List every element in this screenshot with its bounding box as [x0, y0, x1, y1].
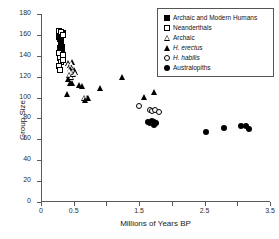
- chart-legend: Archaic and Modern HumansNeanderthalsArc…: [157, 8, 274, 77]
- filled-triangle-icon: [164, 45, 170, 51]
- x-axis-tick-label: 0.5: [69, 207, 79, 215]
- legend-item-label: H. erectus: [173, 44, 203, 52]
- x-axis-tick-label: 1.5: [134, 207, 144, 215]
- open-square-icon: [164, 25, 170, 31]
- y-axis-tick: 20: [37, 181, 41, 182]
- x-axis-tick: [270, 202, 271, 206]
- legend-item-label: Australopiths: [173, 64, 211, 72]
- scatter-chart-figure: Group Size Millions of Years BP 02040608…: [0, 0, 279, 239]
- y-axis-tick-label: 60: [23, 134, 31, 142]
- data-point: [79, 83, 85, 89]
- data-point: [151, 122, 157, 128]
- y-axis-tick-label: 100: [19, 93, 31, 101]
- data-point: [246, 126, 252, 132]
- y-axis-tick: 60: [37, 139, 41, 140]
- x-axis-tick: [106, 202, 107, 206]
- data-point: [85, 95, 91, 101]
- filled-square-icon: [164, 15, 170, 21]
- x-axis-tick: [139, 202, 140, 206]
- y-axis-tick: 120: [37, 77, 41, 78]
- filled-circle-icon: [164, 65, 170, 71]
- legend-item: Archaic: [161, 33, 269, 42]
- data-point: [156, 109, 162, 115]
- x-axis-tick: [172, 202, 173, 206]
- y-axis-tick-label: 80: [23, 113, 31, 121]
- data-point: [57, 67, 63, 73]
- data-point: [64, 91, 70, 97]
- y-axis-tick-label: 120: [19, 72, 31, 80]
- data-point: [119, 74, 125, 80]
- legend-marker-icon: [161, 13, 173, 22]
- y-axis-tick-label: 140: [19, 51, 31, 59]
- legend-item-label: Archaic and Modern Humans: [173, 14, 257, 22]
- y-axis-tick-label: 20: [23, 176, 31, 184]
- data-point: [221, 125, 227, 131]
- x-axis-tick: [205, 202, 206, 206]
- data-point: [60, 32, 66, 38]
- y-axis-tick: 100: [37, 98, 41, 99]
- legend-item: H. habilis: [161, 53, 269, 62]
- data-point: [69, 59, 75, 65]
- y-axis-tick: 160: [37, 35, 41, 36]
- data-point: [141, 94, 147, 100]
- x-axis-tick: [41, 202, 42, 206]
- data-point: [203, 129, 209, 135]
- legend-marker-icon: [161, 23, 173, 32]
- legend-marker-icon: [161, 63, 173, 72]
- data-point: [72, 69, 78, 75]
- x-axis-title: Millions of Years BP: [41, 219, 270, 228]
- y-axis-tick-label: 160: [19, 30, 31, 38]
- x-axis-tick-label: 0: [39, 207, 43, 215]
- x-axis-tick: [237, 202, 238, 206]
- legend-item-label: Archaic: [173, 34, 195, 42]
- data-point: [136, 103, 142, 109]
- legend-marker-icon: [161, 43, 173, 52]
- y-axis-tick-label: 180: [19, 9, 31, 17]
- x-axis-tick: [74, 202, 75, 206]
- y-axis-tick-label: 0: [27, 197, 31, 205]
- y-axis-tick-label: 40: [23, 155, 31, 163]
- data-point: [151, 89, 157, 95]
- legend-item-label: H. habilis: [173, 54, 200, 62]
- data-point: [69, 80, 75, 86]
- open-circle-icon: [164, 55, 170, 61]
- legend-item: Neanderthals: [161, 23, 269, 32]
- y-axis-tick: 140: [37, 56, 41, 57]
- data-point: [97, 85, 103, 91]
- y-axis-tick: 180: [37, 14, 41, 15]
- legend-marker-icon: [161, 53, 173, 62]
- y-axis-tick: 80: [37, 118, 41, 119]
- x-axis-tick-label: 3.5: [265, 207, 275, 215]
- legend-marker-icon: [161, 33, 173, 42]
- y-axis-tick: 40: [37, 160, 41, 161]
- legend-item: Australopiths: [161, 63, 269, 72]
- legend-item: Archaic and Modern Humans: [161, 13, 269, 22]
- legend-item-label: Neanderthals: [173, 24, 212, 32]
- x-axis-tick-label: 2.5: [200, 207, 210, 215]
- open-triangle-icon: [164, 35, 170, 41]
- legend-item: H. erectus: [161, 43, 269, 52]
